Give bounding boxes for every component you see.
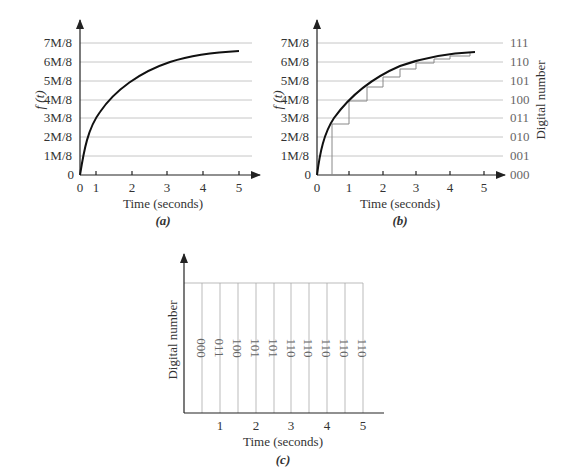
panel-c-y-label: Digital number xyxy=(165,300,180,380)
svg-text:3M/8: 3M/8 xyxy=(281,110,309,125)
svg-text:3: 3 xyxy=(413,180,420,195)
svg-text:2: 2 xyxy=(253,418,260,433)
svg-text:1M/8: 1M/8 xyxy=(281,148,309,163)
panel-b-gridlines xyxy=(317,43,503,156)
svg-text:110: 110 xyxy=(284,338,299,357)
svg-text:0: 0 xyxy=(68,167,75,182)
svg-text:0: 0 xyxy=(77,180,84,195)
svg-text:4: 4 xyxy=(447,180,454,195)
svg-text:5: 5 xyxy=(360,418,367,433)
svg-text:011: 011 xyxy=(212,338,227,357)
svg-text:010: 010 xyxy=(510,129,530,144)
svg-text:4: 4 xyxy=(200,180,207,195)
svg-text:001: 001 xyxy=(510,148,530,163)
panel-a-x-tick-labels: 0 1 2 3 4 5 xyxy=(77,180,243,195)
svg-text:110: 110 xyxy=(319,338,334,357)
svg-text:100: 100 xyxy=(230,338,245,358)
svg-text:101: 101 xyxy=(266,338,281,358)
svg-text:2: 2 xyxy=(129,180,136,195)
panel-a-y-label: f (t) xyxy=(32,90,47,109)
svg-text:110: 110 xyxy=(337,338,352,357)
panel-a-gridlines xyxy=(80,43,252,156)
panel-b-sampled-steps xyxy=(332,53,470,175)
svg-text:100: 100 xyxy=(510,92,530,107)
panel-b-y-tick-labels: 7M/8 6M/8 5M/8 4M/8 3M/8 2M/8 1M/8 0 xyxy=(281,35,311,182)
panel-c: 000 011 100 101 101 110 110 110 110 110 … xyxy=(165,254,384,467)
svg-text:1: 1 xyxy=(346,180,353,195)
svg-text:3: 3 xyxy=(164,180,171,195)
panel-b-y-right-label: Digital number xyxy=(533,60,548,140)
panel-b-x-tick-labels: 0 1 2 3 4 5 xyxy=(314,180,488,195)
svg-text:000: 000 xyxy=(510,167,530,182)
panel-c-cell-values: 000 011 100 101 101 110 110 110 110 110 xyxy=(194,338,370,358)
svg-text:6M/8: 6M/8 xyxy=(281,54,309,69)
panel-b-y-right-tick-labels: 111 110 101 100 011 010 001 000 xyxy=(510,35,530,182)
svg-text:6M/8: 6M/8 xyxy=(44,54,72,69)
svg-text:1: 1 xyxy=(93,180,100,195)
svg-text:5: 5 xyxy=(481,180,488,195)
svg-text:7M/8: 7M/8 xyxy=(44,35,72,50)
panel-b-caption: (b) xyxy=(392,213,407,228)
svg-text:5: 5 xyxy=(236,180,243,195)
svg-text:2M/8: 2M/8 xyxy=(281,129,309,144)
svg-text:011: 011 xyxy=(510,110,529,125)
svg-text:7M/8: 7M/8 xyxy=(281,35,309,50)
svg-text:5M/8: 5M/8 xyxy=(44,73,72,88)
svg-text:110: 110 xyxy=(510,54,529,69)
svg-text:110: 110 xyxy=(355,338,370,357)
svg-text:101: 101 xyxy=(248,338,263,358)
svg-text:2: 2 xyxy=(380,180,387,195)
svg-text:111: 111 xyxy=(510,35,529,50)
svg-text:000: 000 xyxy=(194,338,209,358)
panel-a: 7M/8 6M/8 5M/8 4M/8 3M/8 2M/8 1M/8 0 0 1… xyxy=(32,20,260,228)
panel-c-caption: (c) xyxy=(276,452,290,467)
svg-text:0: 0 xyxy=(314,180,321,195)
svg-text:2M/8: 2M/8 xyxy=(44,129,72,144)
panel-c-x-tick-labels: 1 2 3 4 5 xyxy=(217,418,367,433)
svg-text:1: 1 xyxy=(217,418,224,433)
panel-a-y-tick-labels: 7M/8 6M/8 5M/8 4M/8 3M/8 2M/8 1M/8 0 xyxy=(44,35,74,182)
panel-c-x-label: Time (seconds) xyxy=(243,434,323,449)
figure: 7M/8 6M/8 5M/8 4M/8 3M/8 2M/8 1M/8 0 0 1… xyxy=(0,0,576,476)
panel-b-x-label: Time (seconds) xyxy=(360,196,440,211)
panel-b-y-label: f (t) xyxy=(270,90,285,109)
svg-text:3: 3 xyxy=(288,418,295,433)
svg-text:3M/8: 3M/8 xyxy=(44,110,72,125)
panel-b-curve xyxy=(317,52,475,175)
panel-a-caption: (a) xyxy=(155,213,170,228)
svg-text:1M/8: 1M/8 xyxy=(44,148,72,163)
panel-b: 7M/8 6M/8 5M/8 4M/8 3M/8 2M/8 1M/8 0 111… xyxy=(270,20,548,228)
svg-text:0: 0 xyxy=(305,167,312,182)
svg-text:4M/8: 4M/8 xyxy=(44,92,72,107)
svg-text:110: 110 xyxy=(301,338,316,357)
panel-a-x-label: Time (seconds) xyxy=(123,196,203,211)
svg-text:4: 4 xyxy=(324,418,331,433)
svg-text:101: 101 xyxy=(510,73,530,88)
svg-text:5M/8: 5M/8 xyxy=(281,73,309,88)
svg-text:4M/8: 4M/8 xyxy=(281,92,309,107)
